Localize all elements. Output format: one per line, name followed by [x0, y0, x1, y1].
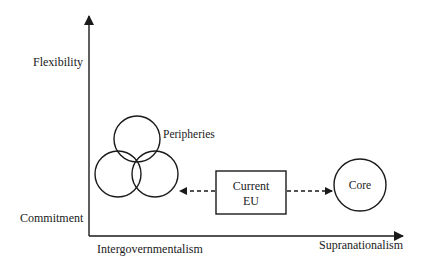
periphery-circle-top: [114, 116, 160, 162]
x-axis-left-label: Intergovernmentalism: [97, 242, 203, 256]
y-axis-bottom-label: Commitment: [20, 211, 84, 225]
x-axis-right-label: Supranationalism: [319, 238, 404, 252]
peripheries-node: Peripheries: [95, 116, 215, 197]
periphery-circle-right: [132, 151, 178, 197]
current-eu-label-line1: Current: [233, 179, 270, 193]
y-axis-top-label: Flexibility: [33, 55, 83, 69]
current-eu-node: Current EU: [216, 171, 286, 214]
peripheries-label: Peripheries: [163, 128, 215, 141]
core-node: Core: [334, 159, 386, 211]
current-eu-label-line2: EU: [243, 194, 259, 208]
eu-integration-diagram: Flexibility Commitment Intergovernmental…: [0, 0, 424, 268]
periphery-circle-left: [95, 151, 141, 197]
core-label: Core: [349, 179, 371, 191]
